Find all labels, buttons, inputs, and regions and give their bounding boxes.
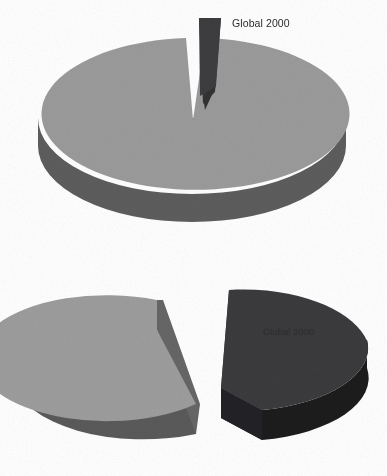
top-pie-major-slice-top [42, 38, 350, 190]
top-pie-chart [38, 18, 350, 222]
bottom-left-slice [0, 295, 200, 439]
bottom-right-slice [221, 290, 369, 440]
figure-root: Global 2000 Global 2000 [0, 0, 387, 476]
top-pie-label: Global 2000 [232, 18, 290, 29]
pie-charts-svg [0, 0, 387, 476]
bottom-pie-label: Global 2000 [263, 327, 314, 337]
